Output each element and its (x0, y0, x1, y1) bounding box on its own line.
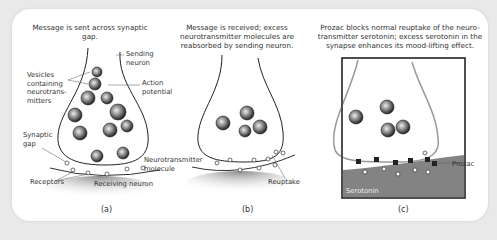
label-sending-neuron: Sending neuron (126, 50, 158, 67)
label-receptors: Receptors (30, 178, 64, 187)
label-neurotransmitter-molecule: Neurotransmitter molecule (144, 156, 210, 173)
panel-b-label: (b) (242, 205, 253, 214)
label-action-potential: Action potential (142, 79, 174, 96)
label-vesicles: Vesicles containing neurotrans- mitters (27, 71, 71, 105)
panel-c-caption: Prozac blocks normal reuptake of the neu… (314, 23, 486, 50)
label-reuptake: Reuptake (268, 178, 300, 187)
panel-c-label: (c) (398, 205, 409, 214)
panel-a-caption: Message is sent across synaptic gap. (30, 23, 150, 41)
label-receiving-neuron: Receiving neuron (94, 180, 153, 189)
panel-c-drawing (334, 58, 465, 198)
panel-b-caption: Message is received; excess neurotransmi… (178, 23, 296, 50)
panel-a-label: (a) (101, 205, 112, 214)
label-serotonin: Serotonin (346, 187, 379, 196)
label-prozac: Prozac (452, 160, 474, 169)
label-synaptic-gap: Synaptic gap (23, 131, 53, 148)
